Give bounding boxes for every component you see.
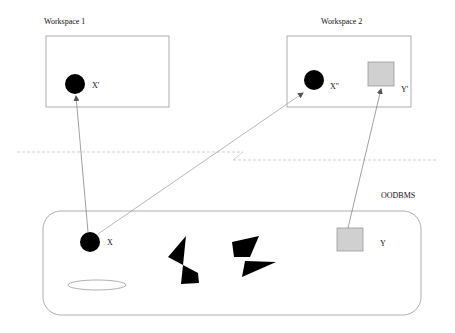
object-y-label: Y <box>380 239 386 248</box>
workspace-1-title: Workspace 1 <box>44 17 85 26</box>
object-y-prime <box>368 62 394 86</box>
ellipse-object <box>68 280 126 290</box>
polygon-object-2b <box>242 261 276 277</box>
polygon-object-2a <box>232 236 259 257</box>
object-y <box>337 228 363 251</box>
oodbms-title: OODBMS <box>381 191 415 200</box>
oodbms-store: OODBMS X Y <box>43 191 421 315</box>
object-y-prime-label: Y' <box>401 85 409 94</box>
arrow-x-to-x-prime <box>76 96 88 232</box>
workspace-1: Workspace 1 X' <box>44 17 169 107</box>
oodbms-workspace-diagram: Workspace 1 X' Workspace 2 X'' Y' OODBMS… <box>0 0 455 333</box>
oodbms-box <box>43 211 421 315</box>
object-x-prime-label: X' <box>92 81 100 90</box>
arrow-x-to-x-double-prime <box>98 93 303 234</box>
polygon-object-1b <box>181 265 199 284</box>
workspace-1-box <box>46 36 169 107</box>
workspace-2: Workspace 2 X'' Y' <box>287 17 411 107</box>
arrow-y-to-y-prime <box>348 89 381 228</box>
arrows <box>76 89 381 234</box>
separator-line <box>17 152 437 160</box>
workspace-2-title: Workspace 2 <box>321 17 362 26</box>
object-x <box>80 232 100 252</box>
object-x-prime <box>65 74 85 94</box>
object-x-double-prime <box>304 70 324 90</box>
object-x-double-prime-label: X'' <box>330 82 339 91</box>
object-x-label: X <box>107 238 113 247</box>
polygon-object-1a <box>168 236 186 265</box>
